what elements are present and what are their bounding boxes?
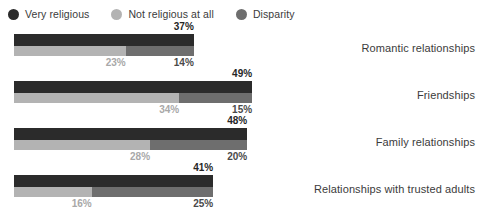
bar-split-row: 28%20%	[14, 140, 247, 150]
bar-value-label-disparity: 15%	[232, 104, 252, 115]
bar-value-label-not-religious-at-all: 23%	[106, 57, 126, 68]
chart-category-labels: Romantic relationshipsFriendshipsFamily …	[275, 24, 475, 212]
bar-value-label-disparity: 14%	[174, 57, 194, 68]
category-label: Friendships	[417, 89, 475, 101]
bar-group-bars: 49%34%15%	[14, 81, 252, 103]
bar-very-religious[interactable]: 49%	[14, 81, 252, 93]
legend-label: Disparity	[253, 8, 295, 20]
circle-icon	[8, 9, 19, 20]
bar-value-label-not-religious-at-all: 16%	[72, 198, 92, 209]
legend-label: Not religious at all	[128, 8, 213, 20]
category-label: Relationships with trusted adults	[314, 183, 475, 195]
bar-value-label-not-religious-at-all: 34%	[159, 104, 179, 115]
bar-disparity[interactable]	[150, 140, 247, 150]
bar-value-label-very-religious: 48%	[227, 115, 247, 126]
bar-group-bars: 41%16%25%	[14, 175, 213, 197]
bar-very-religious[interactable]: 41%	[14, 175, 213, 187]
bar-not-religious-at-all[interactable]	[14, 140, 150, 150]
chart-plot-area: 37%23%14%49%34%15%48%28%20%41%16%25%	[0, 24, 300, 212]
bar-split-row: 23%14%	[14, 46, 194, 56]
bar-value-label-disparity: 25%	[193, 198, 213, 209]
bar-split-row: 16%25%	[14, 187, 213, 197]
bar-not-religious-at-all[interactable]	[14, 187, 92, 197]
legend-label: Very religious	[25, 8, 89, 20]
bar-very-religious[interactable]: 37%	[14, 34, 194, 46]
chart-legend: Very religious Not religious at all Disp…	[8, 5, 317, 23]
category-label: Family relationships	[376, 136, 475, 148]
bar-value-label-very-religious: 41%	[193, 162, 213, 173]
legend-item-not-religious-at-all[interactable]: Not religious at all	[111, 8, 213, 20]
bar-value-label-very-religious: 37%	[174, 21, 194, 32]
bar-disparity[interactable]	[92, 187, 214, 197]
circle-icon	[236, 9, 247, 20]
bar-value-label-not-religious-at-all: 28%	[130, 151, 150, 162]
circle-icon	[111, 9, 122, 20]
legend-item-very-religious[interactable]: Very religious	[8, 8, 89, 20]
bar-value-label-very-religious: 49%	[232, 68, 252, 79]
bar-disparity[interactable]	[126, 46, 194, 56]
bar-group-bars: 48%28%20%	[14, 128, 247, 150]
legend-item-disparity[interactable]: Disparity	[236, 8, 295, 20]
bar-very-religious[interactable]: 48%	[14, 128, 247, 140]
bar-not-religious-at-all[interactable]	[14, 93, 179, 103]
category-label: Romantic relationships	[362, 42, 475, 54]
bar-disparity[interactable]	[179, 93, 252, 103]
bar-group-bars: 37%23%14%	[14, 34, 194, 56]
bar-split-row: 34%15%	[14, 93, 252, 103]
bar-value-label-disparity: 20%	[227, 151, 247, 162]
bar-not-religious-at-all[interactable]	[14, 46, 126, 56]
